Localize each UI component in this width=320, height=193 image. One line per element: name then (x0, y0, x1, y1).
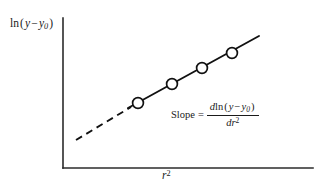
trend-line (128, 36, 259, 108)
slope-numerator: dln(y−y0) (207, 101, 259, 115)
data-point-marker (227, 48, 238, 59)
slope-numerator-var-y: y (229, 101, 234, 112)
x-axis-label: r2 (162, 170, 171, 182)
data-point-marker (133, 98, 144, 109)
data-point-marker (167, 79, 178, 90)
slope-numerator-minus: − (234, 101, 242, 112)
y-axis-label-minus: − (30, 17, 39, 29)
data-point-marker (197, 63, 208, 74)
extrapolation-dashed-line (76, 107, 131, 140)
x-axis-label-exponent: 2 (166, 169, 170, 178)
slope-denominator-exponent: 2 (236, 116, 240, 125)
y-axis-label: ln(y−y0) (10, 18, 54, 31)
figure-root: ln(y−y0) r2 Slope = dln(y−y0) dr2 (0, 0, 320, 193)
slope-denominator: dr2 (223, 116, 242, 129)
slope-label: Slope (171, 109, 197, 120)
slope-fraction: dln(y−y0) dr2 (207, 101, 259, 128)
slope-numerator-close-paren: ) (250, 101, 256, 112)
slope-equals-sign: = (197, 109, 207, 120)
slope-annotation: Slope = dln(y−y0) dr2 (171, 101, 259, 128)
y-axis-label-close-paren: ) (48, 17, 54, 29)
y-axis-label-ln: ln (10, 17, 19, 29)
